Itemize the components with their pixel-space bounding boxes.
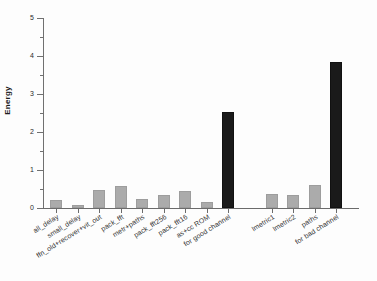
bar-metr-paths <box>136 199 148 208</box>
y-tick-label-4: 4 <box>20 52 34 59</box>
bar-for-bad-channel <box>330 62 342 208</box>
bar-lmetric2 <box>287 195 299 208</box>
x-axis-line <box>43 208 359 209</box>
bar-as-cc-rom <box>201 202 213 208</box>
x-axis-label: lmetric1 <box>250 213 275 232</box>
bar-pack-fft256 <box>158 195 170 208</box>
bar-small-delay <box>72 205 84 208</box>
energy-bar-chart: Energy 012345 all_delaysmall_delayffn_ol… <box>0 0 377 281</box>
bar-ffn-old-recover-vit-out <box>93 190 105 208</box>
y-tick-label-1: 1 <box>20 166 34 173</box>
x-axis-label: lmetric2 <box>272 213 297 232</box>
y-tick-label-2: 2 <box>20 128 34 135</box>
y-tick-label-3: 3 <box>20 90 34 97</box>
y-axis-title: Energy <box>3 86 12 114</box>
bar-all-delay <box>50 200 62 208</box>
bar-for-good-channel <box>222 112 234 208</box>
bar-pack-fft <box>115 186 127 208</box>
bar-paths <box>309 185 321 208</box>
bar-lmetric1 <box>266 194 278 208</box>
y-tick-0 <box>37 208 43 209</box>
y-tick-label-5: 5 <box>20 14 34 21</box>
bar-pack-fft16 <box>179 191 191 208</box>
y-tick-label-0: 0 <box>20 204 34 211</box>
bars-layer <box>43 18 355 208</box>
